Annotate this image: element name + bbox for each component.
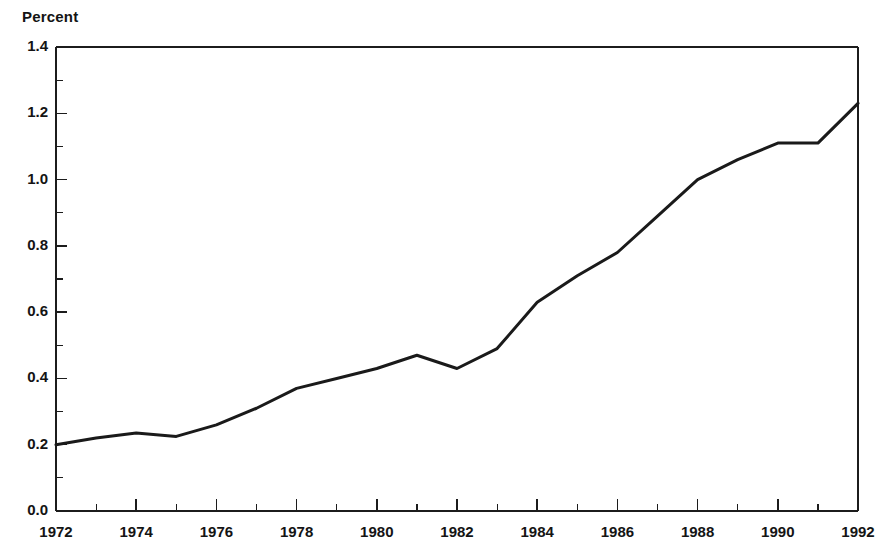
- x-tick-label: 1974: [106, 523, 166, 540]
- x-tick-label: 1982: [427, 523, 487, 540]
- axis-ticks: [56, 47, 858, 511]
- x-tick-label: 1978: [267, 523, 327, 540]
- y-tick-label: 1.2: [2, 103, 48, 120]
- x-tick-label: 1980: [347, 523, 407, 540]
- x-tick-label: 1986: [587, 523, 647, 540]
- y-tick-label: 0.6: [2, 302, 48, 319]
- x-tick-label: 1992: [828, 523, 875, 540]
- data-series-group: [56, 103, 858, 444]
- y-tick-label: 1.4: [2, 37, 48, 54]
- y-tick-label: 0.2: [2, 435, 48, 452]
- y-tick-label: 0.8: [2, 236, 48, 253]
- x-tick-label: 1984: [507, 523, 567, 540]
- x-tick-label: 1990: [748, 523, 808, 540]
- plot-area: [0, 0, 875, 553]
- x-tick-label: 1988: [668, 523, 728, 540]
- y-tick-label: 0.4: [2, 368, 48, 385]
- y-tick-label: 1.0: [2, 170, 48, 187]
- y-tick-label: 0.0: [2, 501, 48, 518]
- chart-figure: Percent 0.00.20.40.60.81.01.21.4 1972197…: [0, 0, 875, 553]
- plot-frame: [56, 47, 858, 511]
- x-tick-label: 1972: [26, 523, 86, 540]
- x-tick-label: 1976: [186, 523, 246, 540]
- data-line-1: [56, 103, 858, 444]
